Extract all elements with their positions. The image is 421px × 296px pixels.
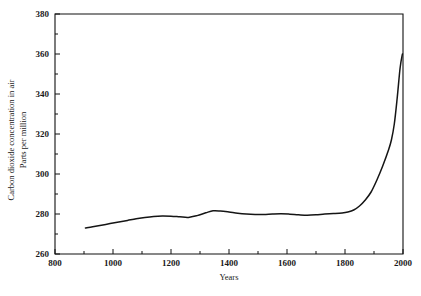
x-axis-tick-labels: 800100012001400160018002000 [48, 258, 412, 268]
chart-canvas: 260280300320340360380 800100012001400160… [0, 0, 421, 296]
x-tick-label: 1000 [104, 258, 123, 268]
y-axis-ticks [55, 14, 60, 254]
x-tick-label: 1800 [336, 258, 355, 268]
y-tick-label: 300 [36, 169, 50, 179]
x-tick-label: 1200 [162, 258, 181, 268]
x-tick-label: 2000 [394, 258, 413, 268]
co2-data-curve [85, 54, 402, 228]
y-tick-label: 340 [36, 89, 50, 99]
y-tick-label: 320 [36, 129, 50, 139]
x-tick-label: 800 [48, 258, 62, 268]
x-tick-label: 1600 [278, 258, 297, 268]
y-axis-tick-labels: 260280300320340360380 [36, 9, 50, 259]
y-axis-title-line1: Carbon dioxide concentration in air [6, 79, 16, 200]
plot-frame [55, 14, 403, 254]
y-axis-title-line2: Parts per million [18, 111, 28, 168]
x-axis-ticks [55, 249, 403, 254]
x-axis-title: Years [220, 272, 239, 282]
x-tick-label: 1400 [220, 258, 239, 268]
y-tick-label: 360 [36, 49, 50, 59]
co2-concentration-chart: 260280300320340360380 800100012001400160… [0, 0, 421, 296]
y-tick-label: 380 [36, 9, 50, 19]
y-tick-label: 280 [36, 209, 50, 219]
